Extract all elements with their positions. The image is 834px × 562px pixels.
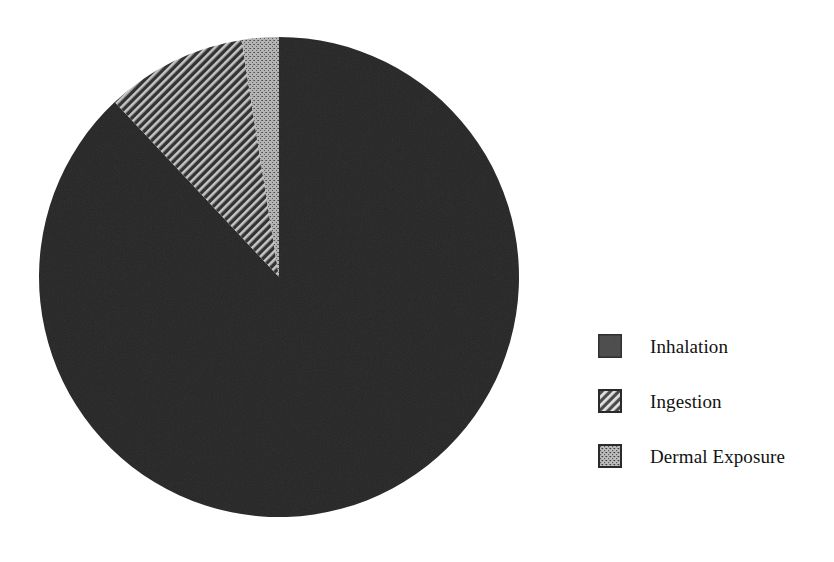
legend: Inhalation Ingestion bbox=[598, 332, 828, 470]
legend-label-inhalation: Inhalation bbox=[650, 337, 728, 356]
pie-svg bbox=[38, 36, 520, 518]
pie-chart-figure: Inhalation Ingestion bbox=[0, 0, 834, 562]
hatch-swatch-icon bbox=[598, 389, 622, 413]
solid-swatch-icon bbox=[598, 334, 622, 358]
legend-label-dermal-exposure: Dermal Exposure bbox=[650, 447, 785, 466]
pie-texture-overlay bbox=[38, 36, 520, 518]
speckle-swatch-icon bbox=[598, 444, 622, 468]
legend-item-inhalation[interactable]: Inhalation bbox=[598, 332, 828, 360]
pie-chart-area bbox=[38, 36, 520, 518]
legend-item-dermal-exposure[interactable]: Dermal Exposure bbox=[598, 442, 828, 470]
legend-item-ingestion[interactable]: Ingestion bbox=[598, 387, 828, 415]
legend-label-ingestion: Ingestion bbox=[650, 392, 722, 411]
